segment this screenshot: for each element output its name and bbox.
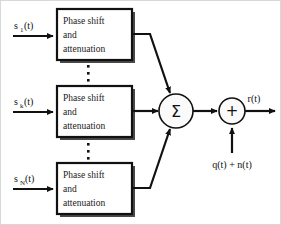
block-n-line-1: Phase shift (63, 170, 105, 180)
block-n-line-3: attenuation (63, 198, 105, 208)
ellipsis-lower-dot-3 (87, 157, 90, 160)
block-k-line-3: attenuation (63, 121, 105, 131)
sigma-icon: Σ (171, 102, 181, 121)
input-label-1-base: s (14, 20, 18, 31)
input-label-n-arg: (t) (25, 173, 34, 185)
input-label-k-arg: (t) (24, 96, 33, 108)
ellipsis-upper-dot-1 (87, 65, 90, 68)
ellipsis-upper (87, 65, 90, 82)
input-label-1-arg: (t) (24, 20, 33, 32)
summation-node[interactable]: Σ (159, 94, 193, 128)
block-k-line-2: and (63, 107, 77, 117)
block-diagram-canvas: Phase shift and attenuation Phase shift … (0, 0, 281, 225)
output-signal-label: r(t) (248, 93, 261, 105)
input-label-n-base: s (14, 173, 18, 184)
input-label-1: s 1 (t) (14, 20, 33, 34)
ellipsis-upper-dot-2 (87, 72, 90, 75)
block-k-line-1: Phase shift (63, 93, 105, 103)
adder-node[interactable]: + (219, 98, 245, 124)
block-group-n: Phase shift and attenuation (57, 163, 135, 217)
block-n-line-2: and (63, 184, 77, 194)
block-group-k: Phase shift and attenuation (57, 86, 135, 140)
ellipsis-lower (87, 143, 90, 160)
block-1-line-2: and (63, 30, 77, 40)
ellipsis-lower-dot-2 (87, 150, 90, 153)
input-label-k: s k (t) (14, 96, 33, 110)
wire-blockn-to-sigma (132, 129, 170, 188)
block-group-1: Phase shift and attenuation (57, 9, 135, 63)
diagram-svg: Phase shift and attenuation Phase shift … (1, 1, 281, 225)
ellipsis-upper-dot-3 (87, 79, 90, 82)
input-label-n: s N (t) (14, 173, 34, 187)
wire-block1-to-sigma (132, 34, 170, 93)
block-1-line-3: attenuation (63, 44, 105, 54)
ellipsis-lower-dot-1 (87, 143, 90, 146)
plus-icon: + (226, 102, 239, 120)
block-1-line-1: Phase shift (63, 16, 105, 26)
noise-input-label: q(t) + n(t) (212, 159, 252, 171)
input-label-k-base: s (14, 96, 18, 107)
